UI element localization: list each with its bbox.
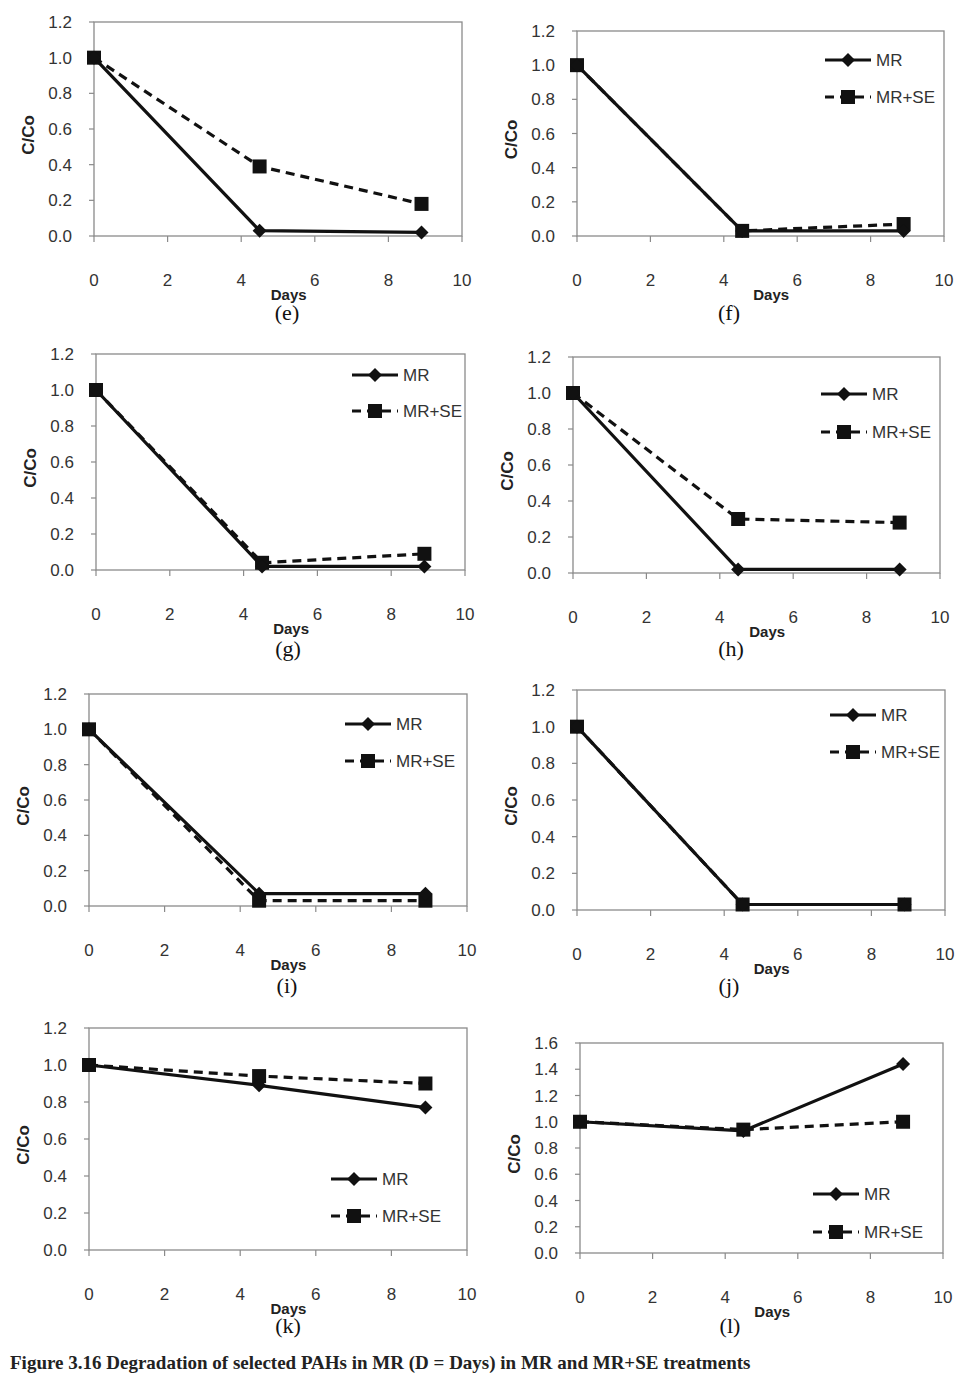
x-tick-label: 0	[572, 271, 581, 290]
x-tick-label: 10	[936, 945, 955, 964]
series-line-mr-se	[94, 58, 422, 204]
y-tick-label: 0.8	[527, 420, 551, 439]
y-tick-label: 1.6	[534, 1034, 558, 1053]
legend-label: MR	[403, 366, 429, 385]
x-tick-label: 0	[91, 605, 100, 624]
x-tick-label: 4	[720, 1288, 729, 1307]
x-tick-label: 8	[866, 271, 875, 290]
legend-label: MR	[872, 385, 898, 404]
legend-label: MR	[881, 706, 907, 725]
y-tick-label: 0.6	[43, 1130, 67, 1149]
y-tick-label: 0.4	[527, 492, 551, 511]
x-tick-label: 4	[235, 1285, 244, 1304]
y-tick-label: 0.6	[48, 120, 72, 139]
chart-panel-j: 0.00.20.40.60.81.01.20246810DaysC/CoMRMR…	[502, 681, 954, 977]
x-tick-label: 2	[160, 1285, 169, 1304]
x-axis-title: Days	[754, 1303, 790, 1320]
x-tick-label: 6	[313, 605, 322, 624]
x-axis-title: Days	[753, 286, 789, 303]
legend-label: MR+SE	[396, 752, 455, 771]
legend-diamond-icon	[368, 368, 382, 382]
x-tick-label: 10	[453, 271, 472, 290]
legend: MRMR+SE	[352, 366, 462, 421]
legend: MRMR+SE	[830, 706, 940, 762]
y-axis-title: C/Co	[502, 120, 521, 160]
y-tick-label: 0.4	[43, 1167, 67, 1186]
x-tick-label: 4	[235, 941, 244, 960]
x-tick-label: 6	[792, 271, 801, 290]
x-tick-label: 6	[311, 1285, 320, 1304]
legend-diamond-icon	[347, 1172, 361, 1186]
x-tick-label: 4	[719, 945, 728, 964]
y-tick-label: 1.0	[534, 1113, 558, 1132]
legend-label: MR	[382, 1170, 408, 1189]
x-tick-label: 2	[646, 271, 655, 290]
y-tick-label: 0.6	[43, 791, 67, 810]
x-axis-title: Days	[273, 620, 309, 637]
diamond-marker	[415, 225, 429, 239]
legend-label: MR+SE	[872, 423, 931, 442]
x-tick-label: 0	[84, 1285, 93, 1304]
panel-label-l: (l)	[720, 1313, 741, 1339]
y-tick-label: 0.0	[527, 564, 551, 583]
y-tick-label: 0.2	[531, 864, 555, 883]
x-tick-label: 8	[867, 945, 876, 964]
x-tick-label: 4	[719, 271, 728, 290]
y-tick-label: 0.2	[534, 1218, 558, 1237]
x-tick-label: 0	[84, 941, 93, 960]
legend-diamond-icon	[837, 387, 851, 401]
y-tick-label: 1.2	[531, 681, 555, 700]
legend-label: MR+SE	[864, 1223, 923, 1242]
y-tick-label: 1.2	[50, 345, 74, 364]
y-tick-label: 0.4	[50, 489, 74, 508]
y-tick-label: 0.8	[48, 84, 72, 103]
y-tick-label: 0.2	[50, 525, 74, 544]
x-axis-title: Days	[749, 623, 785, 640]
x-tick-label: 2	[165, 605, 174, 624]
y-tick-label: 1.0	[43, 1056, 67, 1075]
x-tick-label: 8	[386, 605, 395, 624]
plot-area-frame	[580, 1043, 943, 1253]
legend-label: MR	[864, 1185, 890, 1204]
x-tick-label: 0	[89, 271, 98, 290]
legend-square-icon	[829, 1225, 843, 1239]
y-axis-title: C/Co	[498, 451, 517, 491]
y-tick-label: 0.6	[531, 125, 555, 144]
x-tick-label: 10	[456, 605, 475, 624]
legend: MRMR+SE	[813, 1185, 923, 1242]
x-tick-label: 0	[568, 608, 577, 627]
x-tick-label: 4	[239, 605, 248, 624]
x-tick-label: 8	[862, 608, 871, 627]
chart-panel-g: 0.00.20.40.60.81.01.20246810DaysC/CoMRMR…	[21, 345, 474, 637]
y-tick-label: 0.2	[43, 862, 67, 881]
legend-label: MR+SE	[876, 88, 935, 107]
y-tick-label: 0.6	[534, 1165, 558, 1184]
series-line-mr	[94, 58, 422, 233]
y-tick-label: 0.8	[531, 754, 555, 773]
series-line-mr	[89, 729, 425, 893]
x-tick-label: 6	[310, 271, 319, 290]
y-tick-label: 1.0	[531, 718, 555, 737]
panel-label-i: (i)	[277, 973, 298, 999]
y-tick-label: 0.2	[48, 191, 72, 210]
y-axis-title: C/Co	[19, 115, 38, 155]
y-tick-label: 0.8	[43, 1093, 67, 1112]
y-tick-label: 0.8	[531, 90, 555, 109]
square-marker	[896, 1115, 910, 1129]
legend-label: MR	[396, 715, 422, 734]
x-tick-label: 2	[648, 1288, 657, 1307]
y-tick-label: 1.4	[534, 1060, 558, 1079]
panel-label-g: (g)	[275, 636, 301, 662]
y-axis-title: C/Co	[502, 786, 521, 826]
legend-label: MR	[876, 51, 902, 70]
y-tick-label: 1.2	[43, 1019, 67, 1038]
legend-label: MR+SE	[382, 1207, 441, 1226]
x-tick-label: 6	[793, 1288, 802, 1307]
x-tick-label: 6	[311, 941, 320, 960]
x-tick-label: 2	[160, 941, 169, 960]
y-tick-label: 0.4	[43, 826, 67, 845]
y-tick-label: 1.0	[48, 49, 72, 68]
legend-square-icon	[846, 745, 860, 759]
x-tick-label: 10	[931, 608, 950, 627]
